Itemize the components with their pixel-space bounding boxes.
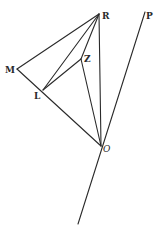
label-p: P <box>146 11 153 21</box>
label-l: L <box>34 91 41 101</box>
segment-ro <box>99 14 101 146</box>
segment-rz <box>81 14 99 59</box>
label-o: O <box>103 144 111 154</box>
label-m: M <box>5 65 15 75</box>
segment-rl <box>43 14 99 90</box>
geometry-diagram: R P M L Z O <box>0 0 163 231</box>
segment-zo <box>81 59 101 146</box>
segment-mo <box>17 69 101 146</box>
segment-po-tail <box>78 12 145 224</box>
label-z: Z <box>84 54 91 64</box>
label-r: R <box>102 11 110 21</box>
